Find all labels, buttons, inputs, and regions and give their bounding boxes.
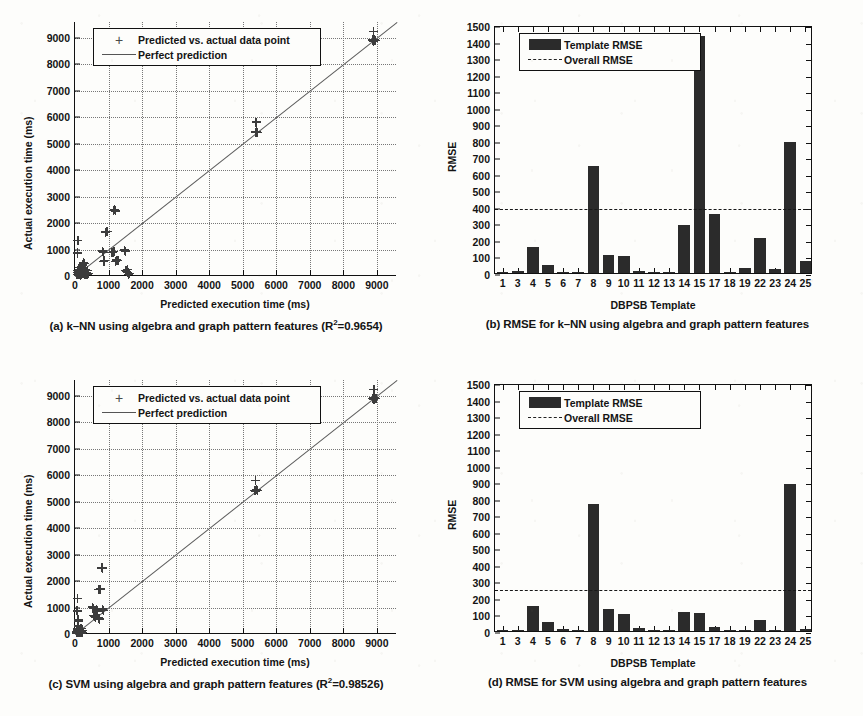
bar (618, 256, 630, 273)
y-tick-label: 400 (472, 561, 490, 573)
y-tick-label: 800 (472, 137, 490, 149)
y-tick-label: 1200 (467, 71, 490, 83)
y-tick-label: 200 (472, 236, 490, 248)
y-tick-mark (495, 76, 500, 77)
y-tick-mark-right (806, 534, 811, 535)
y-tick-mark-right (806, 258, 811, 259)
x-tick-label: 10 (618, 277, 630, 289)
x-tick-label: 9 (606, 635, 612, 647)
x-tick-mark (109, 628, 110, 633)
x-tick-mark (209, 270, 210, 275)
y-tick-label: 900 (472, 478, 490, 490)
x-tick-label: 6 (560, 635, 566, 647)
y-tick-label: 300 (472, 577, 490, 589)
y-tick-mark (75, 528, 80, 529)
y-tick-mark-right (806, 27, 811, 28)
x-tick-mark-top (669, 27, 670, 32)
bar (497, 630, 509, 631)
bar (497, 272, 509, 273)
line-marker-icon (102, 412, 136, 413)
y-tick-mark-right (806, 192, 811, 193)
x-tick-label: 6 (560, 277, 566, 289)
legend-row: Template RMSE (526, 395, 694, 410)
x-tick-mark (343, 628, 344, 633)
x-tick-label: 2000 (130, 279, 153, 291)
x-tick-mark-top (639, 27, 640, 32)
y-tick-mark-right (806, 44, 811, 45)
y-tick-mark (495, 175, 500, 176)
bar (739, 630, 751, 631)
x-tick-mark (377, 628, 378, 633)
x-tick-label: 7000 (298, 637, 321, 649)
overall-rmse-line (495, 209, 811, 210)
legend-key (526, 38, 564, 52)
x-tick-label: 22 (754, 635, 766, 647)
y-tick-label: 1500 (467, 21, 490, 33)
y-tick-mark (495, 159, 500, 160)
bar (678, 225, 690, 273)
bar-chart-knn-rmse: 0100200300400500600700800900100011001200… (432, 0, 863, 350)
bar (663, 630, 675, 631)
x-tick-label: 8 (591, 277, 597, 289)
y-tick-label: 2000 (47, 575, 70, 587)
legend-row: Perfect prediction (100, 405, 314, 420)
x-tick-mark-top (760, 385, 761, 390)
bar (588, 504, 600, 631)
gridline-vertical (343, 22, 344, 275)
y-tick-label: 1400 (467, 396, 490, 408)
x-tick-mark-top (654, 385, 655, 390)
overall-rmse-line (495, 590, 811, 591)
x-tick-mark-top (684, 385, 685, 390)
y-tick-mark (75, 64, 80, 65)
x-tick-label: 6000 (265, 279, 288, 291)
x-tick-mark (276, 628, 277, 633)
plot-legend: Template RMSEOverall RMSE (519, 33, 701, 71)
legend-row: Overall RMSE (526, 52, 694, 67)
y-tick-mark (495, 109, 500, 110)
x-tick-mark-top (805, 27, 806, 32)
y-tick-mark (495, 27, 500, 28)
x-tick-label: 4000 (197, 637, 220, 649)
gridline-horizontal (75, 117, 396, 118)
legend-row: Perfect prediction (100, 47, 314, 62)
y-axis-label-d: RMSE (446, 500, 458, 530)
y-tick-mark (75, 475, 80, 476)
x-tick-mark-top (609, 27, 610, 32)
x-tick-label: 0 (72, 279, 78, 291)
x-tick-mark-top (593, 27, 594, 32)
y-tick-mark (495, 142, 500, 143)
gridline-horizontal (75, 449, 396, 450)
x-tick-mark-top (548, 27, 549, 32)
plot-axes-a: 0100020003000400050006000700080009000010… (74, 22, 396, 276)
y-tick-label: 3000 (47, 191, 70, 203)
y-tick-mark-right (806, 242, 811, 243)
y-tick-mark (495, 401, 500, 402)
x-tick-mark-top (775, 27, 776, 32)
bar (800, 629, 812, 631)
x-tick-mark-top (730, 385, 731, 390)
y-tick-mark (495, 599, 500, 600)
y-tick-mark-right (806, 435, 811, 436)
x-tick-label: 5 (545, 635, 551, 647)
gridline-horizontal (75, 608, 396, 609)
y-tick-mark-right (806, 126, 811, 127)
x-tick-mark (243, 628, 244, 633)
y-tick-label: 1500 (467, 379, 490, 391)
x-tick-label: 1 (500, 277, 506, 289)
gridline-vertical (343, 380, 344, 633)
legend-row: +Predicted vs. actual data point (100, 390, 314, 405)
x-tick-label: 7 (575, 277, 581, 289)
plus-marker-icon: + (115, 393, 123, 403)
legend-label: Template RMSE (564, 397, 643, 409)
x-tick-mark (310, 628, 311, 633)
y-tick-label: 1400 (467, 38, 490, 50)
gridline-horizontal (75, 197, 396, 198)
bar (572, 630, 584, 631)
bar (572, 272, 584, 273)
plot-axes-b: 0100200300400500600700800900100011001200… (494, 26, 812, 274)
y-tick-label: 1200 (467, 429, 490, 441)
x-tick-mark (142, 270, 143, 275)
legend-label: Template RMSE (564, 39, 643, 51)
bar (678, 612, 690, 632)
bar (603, 609, 615, 631)
